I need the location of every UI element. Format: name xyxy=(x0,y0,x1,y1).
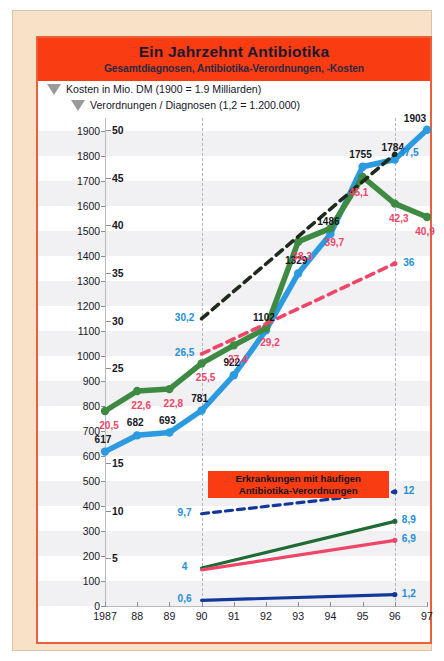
series-marker xyxy=(230,341,238,349)
series-marker xyxy=(165,385,173,393)
plot-area: 0100200300400500600700800900100011001200… xyxy=(38,118,430,642)
series-line xyxy=(202,154,395,319)
series-marker xyxy=(133,387,141,395)
series-marker xyxy=(197,359,205,367)
legend-label-verordnungen: Verordnungen / Diagnosen (1,2 = 1.200.00… xyxy=(90,99,300,111)
data-label: 30,2 xyxy=(175,311,195,322)
data-label: 1102 xyxy=(253,312,275,323)
data-label: 1903 xyxy=(404,112,426,123)
series-marker xyxy=(294,269,302,277)
data-label: 0,6 xyxy=(178,593,192,604)
data-label: 693 xyxy=(159,414,176,425)
data-label: 42,3 xyxy=(389,212,409,223)
series-endpoint-marker xyxy=(392,592,397,597)
data-label: 682 xyxy=(127,417,144,428)
series-marker xyxy=(133,431,141,439)
series-line xyxy=(202,595,395,601)
data-label: 4 xyxy=(182,560,188,571)
series-marker xyxy=(391,199,399,207)
triangle-marker-icon xyxy=(47,84,61,95)
callout-box: Erkrankungen mit häufigen Antibiotika-Ve… xyxy=(208,471,389,499)
series-marker xyxy=(294,237,302,245)
legend-item-verordnungen: Verordnungen / Diagnosen (1,2 = 1.200.00… xyxy=(71,99,300,111)
chart-subtitle: Gesamtdiagnosen, Antibiotika-Verordnunge… xyxy=(38,62,430,76)
data-label: 36 xyxy=(403,256,414,267)
chart-legend: Kosten in Mio. DM (1900 = 1.9 Milliarden… xyxy=(38,82,430,118)
data-label: 12 xyxy=(403,484,414,495)
data-label: 26,5 xyxy=(175,346,195,357)
series-marker xyxy=(197,406,205,414)
series-line xyxy=(105,130,427,452)
chart-title: Ein Jahrzehnt Antibiotika xyxy=(38,42,430,62)
data-label: 617 xyxy=(95,433,112,444)
series-endpoint-marker xyxy=(392,519,397,524)
data-label: 25,5 xyxy=(196,372,216,383)
series-marker xyxy=(230,371,238,379)
poster-paper: Ein Jahrzehnt Antibiotika Gesamtdiagnose… xyxy=(12,10,432,651)
series-marker xyxy=(101,407,109,415)
data-label: 1755 xyxy=(349,148,371,159)
data-label: 8,9 xyxy=(402,514,416,525)
series-endpoint-marker xyxy=(392,489,397,494)
chart-frame: Ein Jahrzehnt Antibiotika Gesamtdiagnose… xyxy=(36,36,432,644)
data-label: 6,9 xyxy=(402,533,416,544)
legend-label-kosten: Kosten in Mio. DM (1900 = 1.9 Milliarden… xyxy=(66,83,261,95)
data-label: 39,7 xyxy=(325,237,345,248)
data-label: 29,2 xyxy=(260,337,280,348)
series-line xyxy=(105,177,427,411)
data-label: 27,4 xyxy=(228,354,248,365)
data-label: 781 xyxy=(191,392,208,403)
data-label: 1486 xyxy=(317,216,339,227)
chart-page: Ein Jahrzehnt Antibiotika Gesamtdiagnose… xyxy=(0,0,444,661)
series-endpoint-marker xyxy=(392,538,397,543)
triangle-marker-icon xyxy=(71,100,85,111)
data-label: 38,3 xyxy=(292,250,312,261)
data-label: 22,8 xyxy=(164,398,184,409)
data-label: 22,6 xyxy=(131,400,151,411)
data-label: 40,9 xyxy=(415,225,435,236)
data-label: 9,7 xyxy=(178,506,192,517)
data-label: 45,1 xyxy=(349,186,369,197)
series-marker xyxy=(423,126,431,134)
data-label: 47,5 xyxy=(399,147,419,158)
series-marker xyxy=(358,163,366,171)
data-label: 1,2 xyxy=(402,587,416,598)
series-lines xyxy=(38,118,430,642)
callout-line-1: Erkrankungen mit häufigen xyxy=(208,473,389,485)
series-marker xyxy=(165,428,173,436)
series-endpoint-marker xyxy=(392,261,397,266)
legend-item-kosten: Kosten in Mio. DM (1900 = 1.9 Milliarden… xyxy=(47,83,261,95)
series-marker xyxy=(101,447,109,455)
series-endpoint-marker xyxy=(392,152,397,157)
chart-header: Ein Jahrzehnt Antibiotika Gesamtdiagnose… xyxy=(38,38,430,81)
callout-line-2: Antibiotika-Verordnungen xyxy=(208,485,389,497)
series-marker xyxy=(423,213,431,221)
data-label: 20,5 xyxy=(99,419,119,430)
